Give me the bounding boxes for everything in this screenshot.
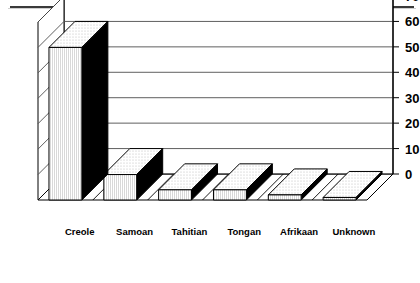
bar-front-face [104, 175, 137, 200]
y-tick-label-20: 20 [405, 116, 419, 131]
bar-creole[interactable] [49, 21, 108, 200]
bar-front-face [213, 190, 246, 200]
y-tick-label-10: 10 [405, 142, 419, 157]
y-tick-label-70: 70 [405, 0, 419, 4]
bar-chart-3d: 010203040506070CreoleSamoanTahitianTonga… [0, 0, 420, 283]
category-label-samoan: Samoan [116, 226, 153, 237]
chart-svg: 010203040506070CreoleSamoanTahitianTonga… [0, 0, 420, 283]
chart-back-wall [64, 0, 393, 174]
category-label-afrikaan: Afrikaan [280, 226, 318, 237]
category-label-tahitian: Tahitian [172, 226, 208, 237]
y-tick-label-50: 50 [405, 40, 419, 55]
y-tick-label-30: 30 [405, 91, 419, 106]
category-label-unknown: Unknown [333, 226, 376, 237]
bar-side-face [82, 21, 108, 200]
category-label-creole: Creole [65, 226, 95, 237]
chart-container: 010203040506070CreoleSamoanTahitianTonga… [0, 0, 420, 283]
y-tick-label-40: 40 [405, 65, 419, 80]
chart-scene [38, 0, 399, 200]
bar-front-face [159, 190, 192, 200]
bar-front-face [323, 197, 356, 200]
bar-front-face [268, 195, 301, 200]
y-tick-label-60: 60 [405, 14, 419, 29]
bar-front-face [49, 47, 82, 200]
category-label-tongan: Tongan [227, 226, 261, 237]
y-tick-label-0: 0 [405, 167, 412, 182]
